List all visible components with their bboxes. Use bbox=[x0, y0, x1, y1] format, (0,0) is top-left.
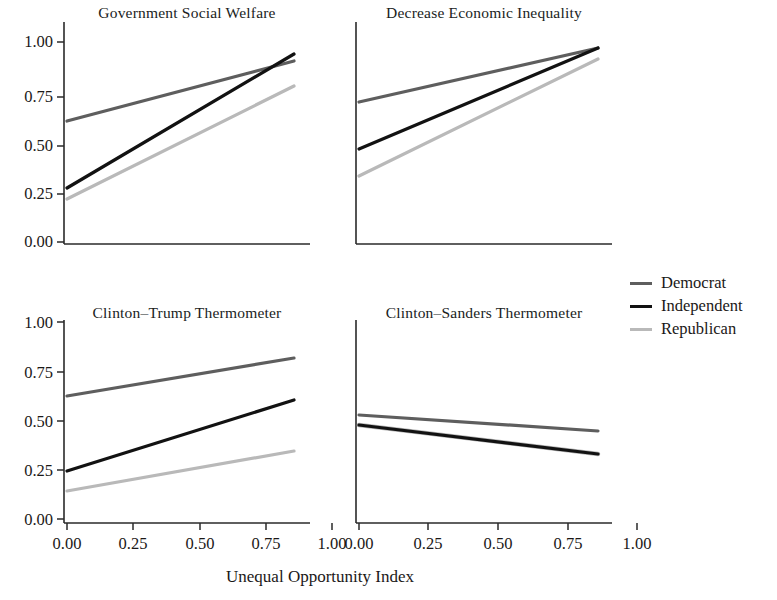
legend-item-republican[interactable]: Republican bbox=[630, 318, 777, 341]
xtick-label: 0.00 bbox=[37, 534, 97, 554]
plot-area bbox=[62, 4, 312, 264]
xtick-label: 0.25 bbox=[103, 534, 163, 554]
xtick-label: 0.50 bbox=[170, 534, 230, 554]
plot-area bbox=[354, 304, 614, 554]
line-republican bbox=[67, 86, 294, 199]
legend-swatch-icon bbox=[630, 305, 652, 308]
panel-clinton-trump-thermometer: Clinton–Trump Thermometer bbox=[62, 304, 312, 554]
ytick-label: 0.00 bbox=[0, 510, 53, 530]
line-democrat bbox=[67, 358, 294, 396]
ytick-label: 0.00 bbox=[0, 232, 53, 252]
line-republican bbox=[67, 451, 294, 491]
panel-decrease-economic-inequality: Decrease Economic Inequality bbox=[354, 4, 614, 264]
xaxis-title: Unequal Opportunity Index bbox=[0, 567, 640, 587]
xtick-label: 0.00 bbox=[329, 534, 389, 554]
line-independent bbox=[359, 48, 598, 149]
plot-area bbox=[354, 4, 614, 264]
series-lines bbox=[359, 415, 598, 454]
xtick-label: 0.25 bbox=[398, 534, 458, 554]
legend-item-independent[interactable]: Independent bbox=[630, 295, 777, 318]
ytick-label: 1.00 bbox=[0, 313, 53, 333]
plot-area bbox=[62, 304, 312, 554]
panel-clinton-sanders-thermometer: Clinton–Sanders Thermometer bbox=[354, 304, 614, 554]
ytick-label: 0.75 bbox=[0, 87, 53, 107]
legend: Democrat Independent Republican bbox=[630, 272, 777, 341]
legend-swatch-icon bbox=[630, 328, 652, 331]
legend-swatch-icon bbox=[630, 282, 652, 285]
ytick-label: 0.75 bbox=[0, 363, 53, 383]
legend-item-democrat[interactable]: Democrat bbox=[630, 272, 777, 295]
series-lines bbox=[359, 48, 598, 176]
series-lines bbox=[67, 54, 294, 199]
ytick-label: 0.50 bbox=[0, 412, 53, 432]
series-lines bbox=[67, 358, 294, 491]
ytick-label: 0.25 bbox=[0, 461, 53, 481]
figure-canvas: Government Social Welfare 1.00 0.75 0.50… bbox=[0, 0, 777, 600]
ytick-label: 0.50 bbox=[0, 136, 53, 156]
xtick-label: 0.75 bbox=[236, 534, 296, 554]
xtick-label: 1.00 bbox=[607, 534, 667, 554]
legend-label: Independent bbox=[661, 298, 743, 315]
legend-label: Republican bbox=[661, 321, 736, 338]
line-independent bbox=[67, 54, 294, 188]
panel-government-social-welfare: Government Social Welfare bbox=[62, 4, 312, 264]
legend-label: Democrat bbox=[661, 275, 726, 292]
ytick-label: 0.25 bbox=[0, 184, 53, 204]
line-independent bbox=[67, 400, 294, 471]
xtick-label: 0.50 bbox=[468, 534, 528, 554]
ytick-label: 1.00 bbox=[0, 32, 53, 52]
xtick-label: 0.75 bbox=[538, 534, 598, 554]
line-democrat bbox=[67, 61, 294, 121]
